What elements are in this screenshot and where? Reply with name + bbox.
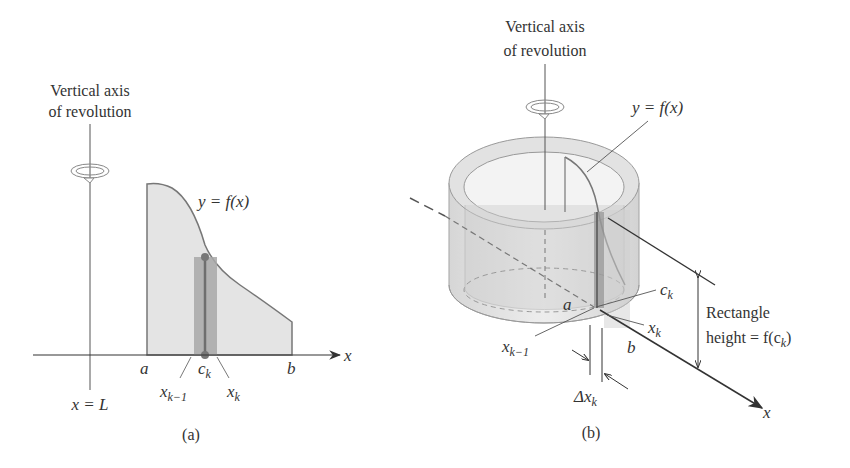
label-a: a — [140, 359, 149, 378]
caption-a: (a) — [182, 426, 200, 444]
label-b: b — [287, 359, 296, 378]
axis-title-line2-b: of revolution — [503, 42, 586, 59]
label-ck-a: ck — [198, 359, 212, 381]
rect-height-line1: Rectangle — [706, 304, 770, 322]
curve-label-b: y = f(x) — [630, 98, 683, 117]
delta-label: Δxk — [573, 387, 598, 409]
strip-extension — [604, 210, 630, 328]
label-ck-b: ck — [660, 280, 674, 302]
leader-xk1-a — [180, 357, 191, 378]
label-xk1-a: xk−1 — [159, 382, 187, 404]
x-axis-label-a: x — [343, 346, 352, 365]
panel-b: Vertical axis of revolution x — [410, 18, 791, 442]
axis-line-label: x = L — [71, 395, 109, 414]
rect-height-line2: height = f(ck) — [706, 329, 791, 350]
point-f-ck — [201, 253, 209, 261]
axis-title-line1-b: Vertical axis — [505, 18, 585, 35]
axis-title-line1-a: Vertical axis — [50, 82, 130, 99]
delta-arrow-left — [572, 350, 588, 360]
label-b-b: b — [627, 338, 636, 357]
rectangle-strip-b — [594, 212, 604, 308]
caption-b: (b) — [582, 424, 601, 442]
x-axis-label-b: x — [762, 403, 771, 422]
figure-canvas: Vertical axis of revolution x y = f(x) a… — [0, 0, 850, 468]
curve-label-a: y = f(x) — [196, 192, 249, 211]
label-xk-b: xk — [647, 318, 662, 340]
x-axis-b — [600, 310, 762, 408]
x-axis-back — [410, 198, 445, 216]
leader-xk-a — [217, 357, 229, 378]
axis-title-line2-a: of revolution — [48, 103, 131, 120]
label-a-b: a — [563, 295, 572, 314]
panel-a: Vertical axis of revolution x y = f(x) a… — [33, 82, 352, 444]
label-xk1-b: xk−1 — [501, 337, 529, 359]
delta-arrow-right — [605, 374, 628, 389]
label-xk-a: xk — [226, 382, 241, 404]
